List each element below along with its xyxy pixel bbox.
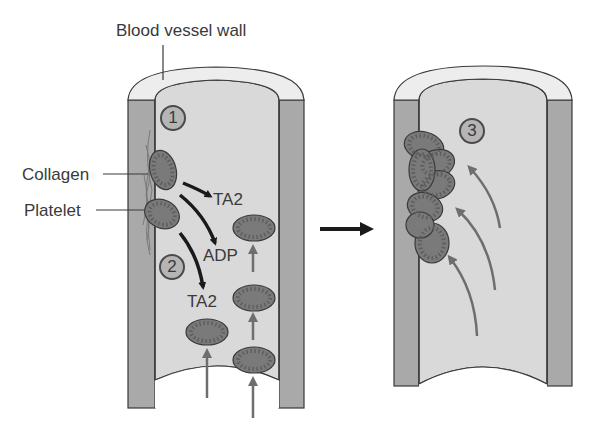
collagen-label: Collagen — [22, 166, 89, 183]
blood-vessel-wall-label: Blood vessel wall — [116, 22, 246, 39]
step-3-badge: 3 — [459, 118, 485, 144]
adp-label: ADP — [203, 247, 238, 264]
platelet-label: Platelet — [24, 202, 81, 219]
step-2-badge: 2 — [159, 254, 185, 280]
diagram-graphics — [0, 0, 589, 432]
step-1-badge: 1 — [160, 105, 186, 131]
left-vessel-wall-right — [279, 100, 304, 408]
left-vessel-wall-left — [128, 100, 155, 408]
left-vessel — [128, 67, 304, 408]
ta2-lower-label: TA2 — [187, 293, 217, 310]
platelet-aggregation-diagram: Blood vessel wall Collagen Platelet TA2 … — [0, 0, 589, 432]
ta2-upper-label: TA2 — [213, 191, 243, 208]
